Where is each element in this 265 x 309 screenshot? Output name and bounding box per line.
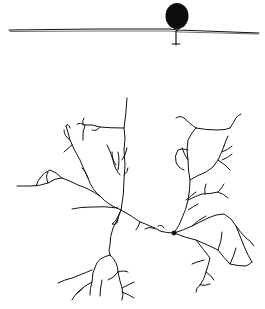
dendritic-tree-drawing [0,0,265,309]
figure-canvas [0,0,265,309]
